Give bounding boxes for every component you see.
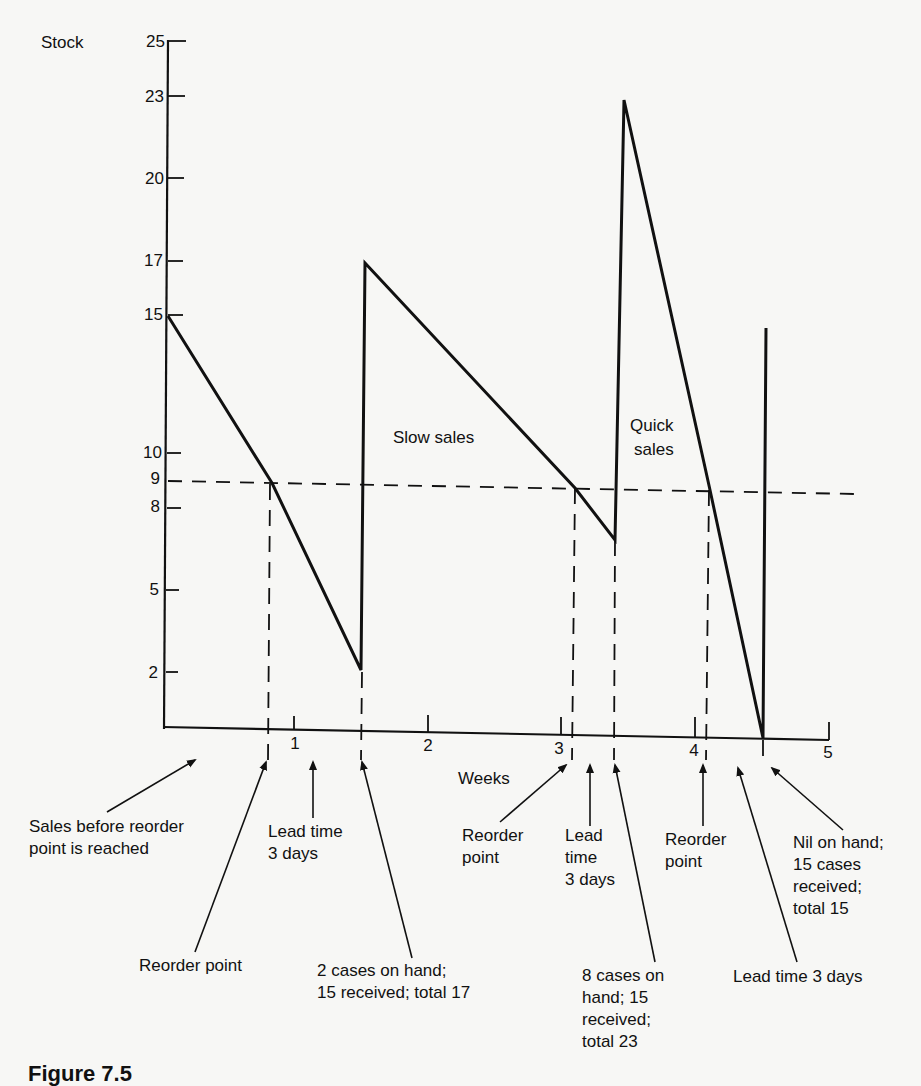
annotation-reorder-point-1: Reorder point (139, 955, 242, 977)
y-tick-label: 9 (130, 470, 160, 488)
x-tick-label: 4 (684, 742, 704, 760)
y-tick-label: 17 (133, 252, 163, 270)
annotation-lead-time-1: Lead time 3 days (268, 821, 343, 865)
slow-sales-label: Slow sales (393, 427, 474, 449)
x-tick-label: 3 (549, 740, 569, 758)
x-tick-label: 1 (285, 735, 305, 753)
y-tick-label: 8 (130, 498, 160, 516)
x-tick-label: 2 (418, 737, 438, 755)
figure-caption: Figure 7.5 (28, 1062, 132, 1086)
y-tick-label: 2 (128, 664, 158, 682)
annotation-reorder-point-3: Reorder point (665, 829, 726, 873)
annotation-lead-time-2: Lead time 3 days (565, 825, 615, 891)
annotation-reorder-point-2: Reorder point (462, 825, 523, 869)
annotation-sales-before-reorder: Sales before reorder point is reached (29, 816, 184, 860)
x-axis-label: Weeks (458, 768, 510, 790)
stock-line (168, 100, 766, 738)
y-tick-label: 15 (133, 306, 163, 324)
annotation-lead-time-3: Lead time 3 days (733, 966, 862, 988)
x-axis (163, 727, 829, 740)
annotation-received-2: 8 cases on hand; 15 received; total 23 (582, 965, 664, 1053)
y-tick-label: 25 (135, 33, 165, 51)
y-axis-label: Stock (41, 32, 84, 54)
y-tick-label: 10 (132, 444, 162, 462)
quick-sales-label-line1: Quick (630, 415, 673, 437)
y-tick-label: 23 (134, 88, 164, 106)
annotation-received-3: Nil on hand; 15 cases received; total 15 (793, 832, 884, 920)
event-lines (268, 484, 763, 765)
y-tick-label: 20 (134, 170, 164, 188)
y-ticks (166, 41, 186, 672)
annotation-received-1: 2 cases on hand; 15 received; total 17 (317, 960, 470, 1004)
y-axis (164, 40, 168, 729)
y-tick-label: 5 (129, 581, 159, 599)
x-ticks (294, 715, 829, 740)
quick-sales-label-line2: sales (634, 439, 674, 461)
x-tick-label: 5 (818, 744, 838, 762)
